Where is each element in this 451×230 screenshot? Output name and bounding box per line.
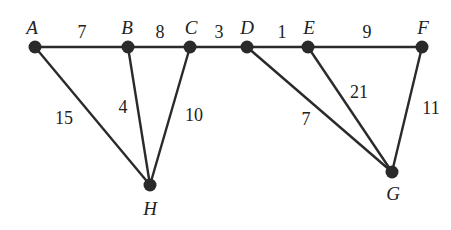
nodes-layer [29, 41, 429, 192]
edge-weight-label: 3 [215, 22, 224, 42]
edge-weight-label: 7 [302, 109, 311, 129]
edges-layer [35, 47, 422, 185]
edge-weight-label: 7 [78, 22, 87, 42]
edge-a-h [35, 47, 150, 185]
edge-weight-label: 11 [422, 98, 439, 118]
node-label-b: B [121, 17, 133, 38]
node-label-g: G [386, 183, 400, 204]
edge-weight-label: 1 [278, 22, 287, 42]
edge-weight-label: 15 [55, 108, 73, 128]
edge-weight-label: 10 [185, 105, 203, 125]
node-h [144, 179, 157, 192]
edge-f-g [392, 47, 422, 172]
node-b [122, 41, 135, 54]
edge-weight-label: 8 [156, 22, 165, 42]
node-label-a: A [24, 17, 38, 38]
node-label-h: H [142, 198, 158, 219]
node-c [184, 41, 197, 54]
edge-weight-label: 9 [363, 22, 372, 42]
node-label-f: F [416, 17, 429, 38]
graph-diagram: 783191541072111 ABCDEFHG [0, 0, 451, 230]
edge-weight-label: 21 [350, 82, 368, 102]
node-label-e: E [302, 17, 315, 38]
edge-c-h [150, 47, 190, 185]
node-e [302, 41, 315, 54]
node-f [416, 41, 429, 54]
node-d [241, 41, 254, 54]
node-a [29, 41, 42, 54]
node-label-c: C [185, 17, 198, 38]
node-label-d: D [239, 17, 254, 38]
edge-labels-layer: 783191541072111 [55, 22, 440, 129]
node-g [386, 166, 399, 179]
edge-weight-label: 4 [119, 97, 128, 117]
